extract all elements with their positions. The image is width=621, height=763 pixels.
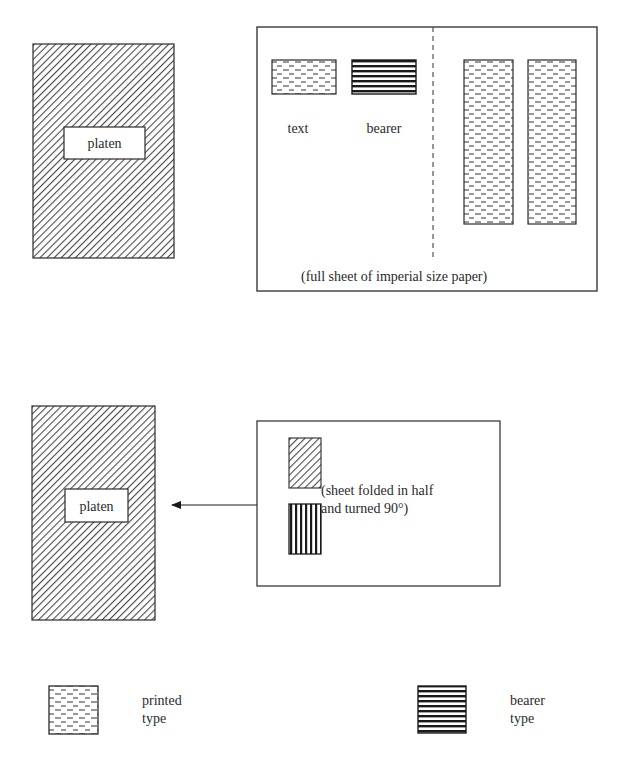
legend-item-bearer-type: bearer type: [418, 686, 545, 733]
full-sheet-caption: (full sheet of imperial size paper): [301, 269, 488, 285]
printed-column-1: [464, 60, 513, 224]
legend: printed type bearer type: [49, 686, 545, 734]
text-swatch: [272, 60, 336, 94]
bearer-swatch-label: bearer: [367, 121, 402, 136]
printed-type-swatch: [49, 686, 98, 734]
bottom-folded-sheet: (sheet folded in half (sheet folded in h…: [257, 421, 500, 586]
top-platen: platen: [33, 44, 174, 258]
bearer-swatch: [352, 60, 416, 94]
folded-striped-block: [289, 504, 321, 554]
printed-type-label-line2: type: [142, 711, 166, 726]
folded-sheet-caption-1: (sheet folded in half: [321, 483, 434, 499]
printed-type-label-line1: printed: [142, 693, 182, 708]
printed-column-2: [528, 60, 576, 224]
folded-hatched-block: [289, 438, 321, 488]
bearer-type-swatch: [418, 686, 466, 733]
bottom-platen-label: platen: [79, 499, 113, 514]
text-swatch-label: text: [288, 121, 309, 136]
bearer-type-label-line2: type: [510, 711, 534, 726]
printing-layout-diagram: platen text bearer (full sheet of imperi…: [0, 0, 621, 763]
legend-item-printed-type: printed type: [49, 686, 182, 734]
bottom-platen: platen: [32, 406, 155, 620]
top-platen-label: platen: [87, 136, 121, 151]
bearer-type-label-line1: bearer: [510, 693, 545, 708]
top-full-sheet: text bearer (full sheet of imperial size…: [257, 27, 597, 291]
folded-sheet-caption-2: and turned 90°): [321, 501, 409, 517]
